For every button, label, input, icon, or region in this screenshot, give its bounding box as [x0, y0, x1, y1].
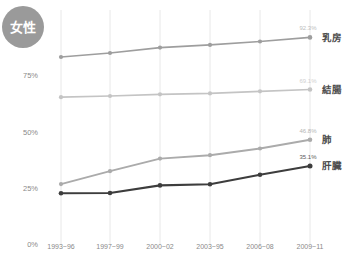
series-colon [59, 87, 312, 99]
series-breast [59, 35, 312, 59]
x-tick-5: 2009~11 [297, 243, 324, 250]
series-lung [59, 137, 312, 186]
value-label-lung: 46.8% [299, 128, 316, 134]
value-label-liver: 35.1% [299, 154, 316, 160]
series-label-colon: 結腸 [322, 85, 342, 95]
series-label-lung: 肺 [322, 135, 332, 145]
value-label-colon: 69.1% [299, 78, 316, 84]
x-tick-4: 2006~08 [246, 243, 273, 250]
series-label-breast: 乳房 [322, 33, 342, 43]
series-liver [59, 164, 313, 196]
x-axis: 1993~96 1997~99 2000~02 2003~95 2006~08 … [0, 243, 352, 259]
series-label-liver: 肝臓 [322, 161, 342, 171]
x-tick-1: 1997~99 [96, 243, 123, 250]
gridlines [61, 10, 310, 245]
gender-badge: 女性 [2, 6, 44, 48]
gender-badge-label: 女性 [10, 21, 36, 34]
chart-container: 女性 75% 50% 25% 0% [0, 0, 352, 259]
x-tick-0: 1993~96 [47, 243, 74, 250]
value-label-breast: 92.3% [299, 25, 316, 31]
x-tick-3: 2003~95 [196, 243, 223, 250]
x-tick-2: 2000~02 [146, 243, 173, 250]
